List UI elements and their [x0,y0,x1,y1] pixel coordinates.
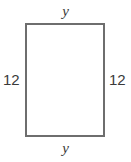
right-side-label: 12 [109,72,126,87]
left-side-label: 12 [3,72,20,87]
top-side-label: y [0,4,131,19]
geometry-figure: y 12 12 y [0,0,131,162]
bottom-side-label: y [0,141,131,156]
rectangle-shape [25,23,105,137]
